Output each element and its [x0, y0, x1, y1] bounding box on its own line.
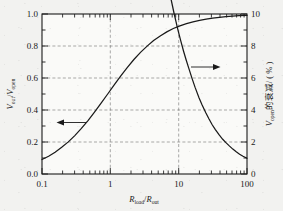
ytick-label-left-3: 0.6: [27, 73, 39, 83]
ytick-label-left-2: 0.4: [27, 105, 39, 115]
ytick-label-right-5: 10: [251, 9, 261, 19]
ytick-label-right-2: 4: [251, 105, 256, 115]
xtick-label-2: 10: [174, 179, 184, 189]
ytick-label-right-1: 2: [251, 137, 256, 147]
ytick-label-right-3: 6: [251, 73, 256, 83]
chart-svg: 0.0 0.2 0.4 0.6 0.8 1.0 0 2 4 6 8 10 0.1…: [0, 0, 283, 211]
xtick-label-1: 1: [108, 179, 113, 189]
ytick-label-left-1: 0.2: [27, 137, 38, 147]
ytick-label-right-4: 8: [251, 41, 256, 51]
left-axis-title-sub-2: open: [10, 78, 16, 89]
right-axis-title-unit: / ( % ): [264, 62, 274, 84]
ytick-label-right-0: 0: [251, 169, 256, 179]
xtick-label-0: 0.1: [36, 179, 47, 189]
ytick-label-left-0: 0.0: [27, 169, 39, 179]
right-axis-title-sub: open: [269, 110, 275, 121]
x-axis-title-sub-1: load: [134, 199, 144, 205]
xtick-label-3: 100: [240, 179, 254, 189]
right-axis-title-cjk: 的衰减: [264, 83, 274, 110]
chart-figure: 0.0 0.2 0.4 0.6 0.8 1.0 0 2 4 6 8 10 0.1…: [0, 0, 283, 211]
plot-area: [42, 14, 247, 174]
ytick-label-left-5: 1.0: [27, 9, 39, 19]
x-axis-title-sub-2: out: [152, 199, 160, 205]
ytick-label-left-4: 0.8: [27, 41, 39, 51]
